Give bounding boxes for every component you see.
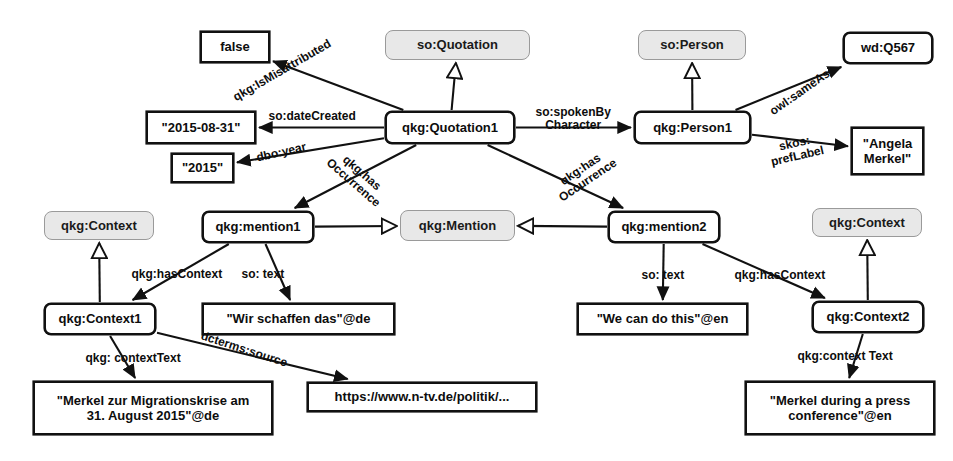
graph-node-mention2: qkg:mention2: [608, 211, 720, 243]
graph-node-ctxClass1: qkg:Context: [44, 211, 154, 240]
rdf-graph-diagram: falseso:Quotationso:Personwd:Q567"2015-0…: [0, 0, 953, 461]
graph-node-quotation1: qkg:Quotation1: [385, 111, 515, 144]
node-label: wd:Q567: [861, 40, 915, 55]
node-label: "Wir schaffen das"@de: [226, 311, 370, 326]
edge-label-hasOcc1: qkg:has Occurrence: [323, 146, 391, 210]
edge-label-contextText1: qkg: contextText: [86, 352, 181, 365]
graph-node-context2: qkg:Context2: [812, 301, 924, 333]
node-label: "We can do this"@en: [597, 311, 729, 326]
node-label: qkg:mention1: [215, 219, 300, 234]
graph-node-soQuotation: so:Quotation: [385, 30, 530, 60]
node-label: qkg:Context: [61, 218, 137, 233]
edge-label-hasOcc2: qkg:has Occurrence: [549, 146, 619, 205]
graph-node-ntvUrl: https://www.n-tv.de/politik/...: [307, 382, 537, 412]
graph-node-false: false: [200, 31, 270, 63]
edge-label-soText2: so: text: [642, 269, 685, 282]
node-label: qkg:Quotation1: [402, 120, 498, 135]
edge-typeContext2: [867, 240, 868, 300]
node-label: "Merkel zur Migrationskrise am 31. Augus…: [57, 393, 250, 424]
edge-typeContext1: [99, 243, 100, 302]
node-label: "Angela Merkel": [863, 136, 913, 167]
graph-node-merkelDe: "Merkel zur Migrationskrise am 31. Augus…: [33, 381, 273, 435]
edge-label-sameAs: owl:sameAs: [768, 67, 833, 118]
graph-node-person1: qkg:Person1: [634, 111, 751, 144]
graph-node-angela: "Angela Merkel": [851, 127, 924, 175]
edge-typeQuotation: [452, 63, 456, 110]
graph-node-year: "2015": [171, 153, 234, 183]
node-label: "Merkel during a press conference"@en: [770, 393, 911, 424]
node-label: "2015": [182, 160, 223, 175]
graph-node-context1: qkg:Context1: [44, 303, 156, 335]
node-label: qkg:mention2: [621, 219, 706, 234]
edge-typeMention2: [518, 226, 607, 227]
edge-label-dboYear: dbo:year: [255, 140, 307, 164]
node-label: qkg:Context: [829, 215, 905, 230]
node-label: qkg:Context2: [826, 309, 909, 324]
graph-node-merkelEn: "Merkel during a press conference"@en: [745, 381, 935, 435]
graph-node-date: "2015-08-31": [146, 111, 256, 144]
edge-label-contextText2: qkg:context Text: [798, 350, 893, 363]
graph-node-weCanDo: "We can do this"@en: [577, 303, 748, 335]
edge-label-soText1: so: text: [242, 268, 285, 281]
node-label: qkg:Mention: [419, 218, 496, 233]
graph-node-wdQ567: wd:Q567: [843, 32, 933, 64]
node-label: qkg:Context1: [58, 311, 141, 326]
node-label: "2015-08-31": [162, 120, 241, 135]
edge-label-hasContext1: qkg:hasContext: [132, 268, 223, 281]
node-label: https://www.n-tv.de/politik/...: [335, 389, 510, 404]
edge-typeMention1: [315, 226, 397, 227]
node-label: so:Person: [660, 37, 724, 52]
node-label: false: [220, 39, 250, 54]
node-label: so:Quotation: [417, 37, 498, 52]
graph-node-mention1: qkg:mention1: [202, 211, 314, 243]
edge-label-spokenBy: so:spokenBy Character: [536, 106, 611, 132]
graph-node-mentionClass: qkg:Mention: [400, 210, 515, 241]
graph-node-wirSchaffen: "Wir schaffen das"@de: [202, 303, 395, 335]
node-label: qkg:Person1: [653, 120, 732, 135]
graph-node-soPerson: so:Person: [638, 30, 746, 60]
edge-label-prefLabel: skos: prefLabel: [767, 131, 826, 169]
edge-label-dateCreated: so:dateCreated: [269, 110, 356, 123]
graph-node-ctxClass2: qkg:Context: [812, 208, 922, 237]
edge-label-hasContext2: qkg:hasContext: [735, 269, 826, 282]
